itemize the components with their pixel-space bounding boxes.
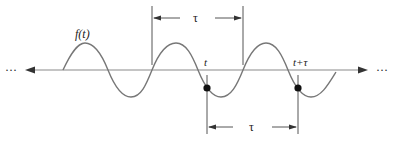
- bottom-tau-label: τ: [249, 120, 254, 134]
- axis-left-arrow-icon: [25, 67, 35, 74]
- right-ellipsis: ···: [376, 63, 388, 77]
- t-plus-tau-label: t+τ: [293, 56, 308, 68]
- point-t-dot: [203, 84, 210, 91]
- left-ellipsis: ···: [5, 63, 17, 77]
- arrow-left-icon: [208, 125, 216, 130]
- point-t-plus-tau-dot: [294, 84, 301, 91]
- arrow-left-icon: [153, 16, 161, 21]
- function-label: f(t): [75, 27, 90, 41]
- periodic-function-diagram: ··· ··· f(t) τ t t+τ τ: [0, 0, 401, 142]
- arrow-right-icon: [234, 16, 242, 21]
- axis-right-arrow-icon: [358, 67, 368, 74]
- t-label: t: [204, 56, 208, 68]
- arrow-right-icon: [289, 125, 297, 130]
- top-tau-label: τ: [193, 11, 198, 25]
